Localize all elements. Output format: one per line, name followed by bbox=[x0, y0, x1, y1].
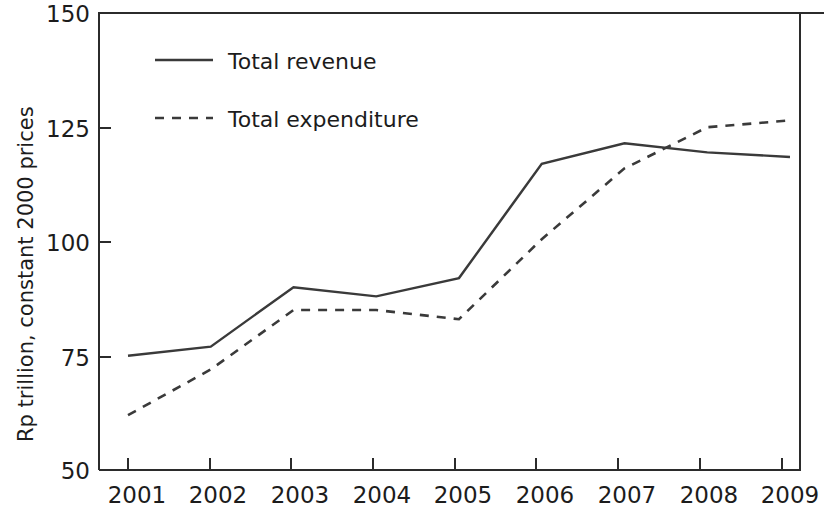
x-tick-label-2008: 2008 bbox=[680, 482, 739, 508]
y-tick-label-100: 100 bbox=[46, 230, 90, 256]
y-tick-label-125: 125 bbox=[46, 116, 90, 142]
series-line-total-expenditure bbox=[128, 120, 790, 415]
y-tick-label-150: 150 bbox=[46, 1, 90, 27]
y-tick-label-75: 75 bbox=[61, 345, 90, 371]
plot-axes bbox=[98, 13, 824, 470]
y-tick-label-50: 50 bbox=[61, 458, 90, 484]
x-tick-label-2005: 2005 bbox=[434, 482, 493, 508]
series-line-total-revenue bbox=[128, 143, 790, 356]
line-chart: 150 125 100 75 50 Rp trillion, constant … bbox=[0, 0, 824, 514]
x-tick-label-2001: 2001 bbox=[108, 482, 167, 508]
x-tick-label-2007: 2007 bbox=[598, 482, 657, 508]
chart-legend: Total revenue Total expenditure bbox=[155, 49, 419, 132]
x-tick-label-2003: 2003 bbox=[271, 482, 330, 508]
y-axis-title: Rp trillion, constant 2000 prices bbox=[14, 106, 38, 442]
x-tick-labels: 2001 2002 2003 2004 2005 2006 2007 2008 … bbox=[108, 482, 820, 508]
x-tick-marks bbox=[128, 458, 782, 470]
x-tick-label-2009: 2009 bbox=[761, 482, 820, 508]
y-tick-marks bbox=[99, 128, 111, 357]
x-tick-label-2002: 2002 bbox=[189, 482, 248, 508]
legend-label-total-revenue: Total revenue bbox=[227, 49, 376, 74]
y-tick-labels: 150 125 100 75 50 bbox=[46, 1, 90, 484]
chart-figure: 150 125 100 75 50 Rp trillion, constant … bbox=[0, 0, 824, 514]
legend-label-total-expenditure: Total expenditure bbox=[227, 107, 419, 132]
x-tick-label-2006: 2006 bbox=[516, 482, 575, 508]
x-tick-label-2004: 2004 bbox=[353, 482, 412, 508]
